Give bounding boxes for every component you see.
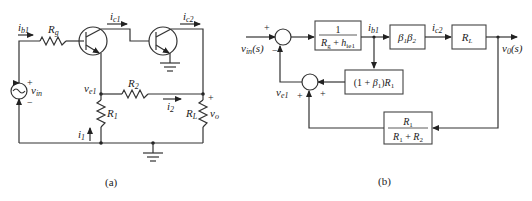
ib1-signal-label: ib1	[368, 21, 379, 35]
sum2-plus-right: +	[320, 88, 326, 99]
block-diagram-b: vin(s) + − 1 Rg + hie1 ib1 β1β2 ic2 RL v…	[241, 21, 523, 188]
ic2-label: ic2	[183, 10, 194, 24]
i2-label: i2	[167, 100, 174, 114]
r1-label: R1	[106, 107, 118, 121]
r1-resistor	[97, 100, 105, 127]
r2-resistor	[122, 90, 148, 98]
output-feedback-wire	[433, 37, 498, 128]
ve1-feedback-wire	[280, 46, 302, 82]
rg-resistor	[40, 37, 66, 45]
caption-b: (b)	[378, 175, 391, 188]
ground-icon	[143, 153, 163, 161]
transistor-q2	[149, 27, 177, 55]
ground-icon	[160, 63, 180, 71]
q1-collector-wire	[101, 29, 149, 41]
ib1-label: ib1	[18, 21, 29, 35]
sum2-plus-left: +	[297, 90, 303, 101]
ac-source-icon	[11, 83, 27, 99]
summing-junction-2	[302, 74, 318, 90]
q2-collector-wire	[171, 29, 203, 94]
sum1-minus: −	[272, 45, 278, 56]
vo-plus: +	[208, 92, 214, 103]
ic1-label: ic1	[110, 10, 121, 24]
output-label: v0(s)	[502, 42, 523, 56]
vin-minus: −	[27, 97, 33, 108]
svg-text:1: 1	[336, 24, 341, 35]
caption-a: (a)	[105, 176, 118, 189]
rl-resistor	[199, 100, 207, 127]
summing-junction-1	[275, 29, 291, 45]
r2-label: R2	[127, 77, 139, 91]
vo-label: vo	[210, 107, 219, 121]
rl-label: RL	[185, 107, 198, 121]
rg-label: Rg	[47, 23, 59, 37]
vin-label: vin	[31, 84, 42, 98]
circuit-a: ib1 Rg ic1 ic2 + − vin ve1 R2 R1 i1 i2 R…	[11, 10, 219, 189]
ve1-label: ve1	[84, 82, 96, 96]
i1-label: i1	[78, 128, 85, 142]
input-label: vin(s)	[241, 42, 264, 56]
diagram-canvas: ib1 Rg ic1 ic2 + − vin ve1 R2 R1 i1 i2 R…	[0, 0, 532, 201]
sum1-plus: +	[264, 22, 270, 33]
ve1-signal-label: ve1	[276, 86, 288, 100]
ic2-signal-label: ic2	[432, 21, 443, 35]
